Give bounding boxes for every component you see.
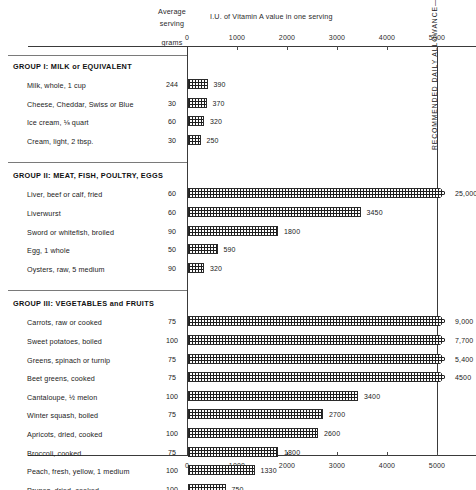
value-bar <box>188 354 446 364</box>
bar-value-label: 7,700 <box>455 337 473 344</box>
axis-top-line <box>28 46 476 47</box>
axis-tick-top <box>237 46 238 50</box>
bar-value-label: 320 <box>210 118 222 125</box>
axis-tick-label: 5000 <box>417 462 457 469</box>
bar-value-label: 3400 <box>364 393 380 400</box>
bar-value-label: 25,000 <box>455 190 476 197</box>
food-item-label: Milk, whole, 1 cup <box>27 81 86 90</box>
bar-value-label: 370 <box>213 100 225 107</box>
chart-title: I.U. of Vitamin A value in one serving <box>210 12 440 21</box>
axis-tick-label: 3000 <box>317 462 357 469</box>
food-item-label: Greens, spinach or turnip <box>27 356 110 365</box>
axis-tick-bottom <box>387 452 388 456</box>
axis-tick-top <box>437 46 438 50</box>
axis-tick-top <box>337 46 338 50</box>
value-bar <box>188 244 218 254</box>
food-item-label: Cheese, Cheddar, Swiss or Blue <box>27 100 133 109</box>
axis-tick-label: 4000 <box>367 34 407 41</box>
average-serving-header: Average serving <box>141 6 203 29</box>
average-serving-line1: Average <box>141 6 203 18</box>
food-item-label: Carrots, raw or cooked <box>27 318 102 327</box>
value-bar <box>188 409 323 419</box>
axis-tick-label: 2000 <box>267 34 307 41</box>
food-item-label: Oysters, raw, 5 medium <box>27 265 105 274</box>
value-bar <box>188 116 204 126</box>
bar-value-label: 5,400 <box>455 356 473 363</box>
value-bar <box>188 316 446 326</box>
value-bar <box>188 391 358 401</box>
value-bar <box>188 335 446 345</box>
axis-tick-label: 3000 <box>317 34 357 41</box>
group-divider-rule <box>8 290 187 291</box>
bar-value-label: 1800 <box>284 228 300 235</box>
bar-value-label: 9,000 <box>455 318 473 325</box>
value-bar <box>188 135 201 145</box>
food-item-label: Cantaloupe, ½ melon <box>27 393 97 402</box>
average-serving-line2: serving <box>141 18 203 30</box>
bar-value-label: 390 <box>214 81 226 88</box>
value-bar <box>188 188 446 198</box>
axis-tick-bottom <box>437 452 438 456</box>
bar-value-label: 2600 <box>324 430 340 437</box>
food-item-label: Broccoli, cooked <box>27 449 81 458</box>
value-bar <box>188 226 278 236</box>
food-item-label: Cream, light, 2 tbsp. <box>27 137 93 146</box>
vitamin-a-chart-sheet: Average serving grams I.U. of Vitamin A … <box>0 0 476 490</box>
food-item-label: Liver, beef or calf, fried <box>27 190 102 199</box>
value-bar <box>188 428 318 438</box>
bar-value-label: 750 <box>232 486 244 490</box>
value-bar <box>188 372 446 382</box>
value-bar <box>188 98 207 108</box>
bar-value-label: 320 <box>210 265 222 272</box>
value-bar <box>188 465 255 475</box>
axis-tick-bottom <box>337 452 338 456</box>
bar-value-label: 590 <box>224 246 236 253</box>
axis-tick-label: 4000 <box>367 462 407 469</box>
group-heading: GROUP II: MEAT, FISH, POULTRY, EGGS <box>13 171 163 180</box>
food-item-label: Egg, 1 whole <box>27 246 70 255</box>
group-heading: GROUP I: MILK or EQUIVALENT <box>13 62 132 71</box>
bar-value-label: 250 <box>207 137 219 144</box>
food-item-label: Ice cream, ⅛ quart <box>27 118 89 127</box>
food-item-label: Apricots, dried, cooked <box>27 430 102 439</box>
food-item-label: Sweet potatoes, boiled <box>27 337 102 346</box>
food-item-label: Winter squash, boiled <box>27 411 98 420</box>
value-bar <box>188 263 204 273</box>
axis-tick-top <box>287 46 288 50</box>
food-item-label: Beet greens, cooked <box>27 374 95 383</box>
axis-tick-top <box>387 46 388 50</box>
value-bar <box>188 484 226 490</box>
food-item-label: Liverwurst <box>27 209 61 218</box>
food-item-label: Peach, fresh, yellow, 1 medium <box>27 467 129 476</box>
food-item-label: Sword or whitefish, broiled <box>27 228 114 237</box>
value-bar <box>188 447 278 457</box>
rda-caption: RECOMMENDED DAILY ALLOWANCE—MEN AND WOME… <box>431 0 438 150</box>
bar-value-label: 1800 <box>284 449 300 456</box>
food-item-label: Prunes, dried, cooked <box>27 486 99 490</box>
axis-tick-label: 5000 <box>417 34 457 41</box>
bar-value-label: 1330 <box>261 467 277 474</box>
bar-value-label: 2700 <box>329 411 345 418</box>
group-divider-rule <box>8 162 187 163</box>
group-heading: GROUP III: VEGETABLES and FRUITS <box>13 299 154 308</box>
value-bar <box>188 207 361 217</box>
axis-tick-label: 1000 <box>217 34 257 41</box>
axis-tick-label: 0 <box>167 34 207 41</box>
bar-value-label: 3450 <box>367 209 383 216</box>
value-bar <box>188 79 208 89</box>
bar-value-label: 4500 <box>455 374 471 381</box>
table-top-rule <box>8 55 187 56</box>
